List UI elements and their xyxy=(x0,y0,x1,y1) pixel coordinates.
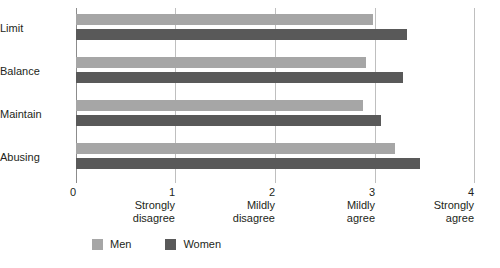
bar-balance-men[interactable] xyxy=(76,57,366,68)
bar-abusing-women[interactable] xyxy=(76,158,420,169)
x-tick-2-caption1: Mildly xyxy=(179,199,275,212)
x-tick-1-value: 1 xyxy=(79,186,175,199)
bar-maintain-women[interactable] xyxy=(76,115,381,126)
bar-limit-men[interactable] xyxy=(76,14,373,25)
category-label-maintain: Maintain xyxy=(0,108,68,120)
legend-swatch-men-icon xyxy=(92,239,103,250)
gridline-4 xyxy=(474,8,475,183)
x-tick-2: 2 Mildly disagree xyxy=(179,186,275,225)
legend-label-women: Women xyxy=(183,238,221,250)
bar-chart: Limit Balance Maintain Abusing xyxy=(0,0,500,268)
x-tick-4-caption1: Strongly xyxy=(378,199,474,212)
x-tick-4-caption2: agree xyxy=(378,212,474,225)
legend-item-men[interactable]: Men xyxy=(92,238,131,250)
x-tick-1-caption1: Strongly xyxy=(79,199,175,212)
bar-maintain-men[interactable] xyxy=(76,100,363,111)
x-tick-3: 3 Mildly agree xyxy=(279,186,375,225)
category-label-balance: Balance xyxy=(0,65,68,77)
bar-balance-women[interactable] xyxy=(76,72,403,83)
category-label-abusing: Abusing xyxy=(0,151,68,163)
x-tick-1: 1 Strongly disagree xyxy=(79,186,175,225)
x-tick-0-value: 0 xyxy=(0,186,76,199)
x-tick-4-value: 4 xyxy=(378,186,474,199)
legend-item-women[interactable]: Women xyxy=(165,238,221,250)
x-tick-2-caption2: disagree xyxy=(179,212,275,225)
legend-swatch-women-icon xyxy=(165,239,176,250)
x-tick-2-value: 2 xyxy=(179,186,275,199)
plot-area xyxy=(76,8,475,183)
x-tick-3-caption2: agree xyxy=(279,212,375,225)
x-tick-4: 4 Strongly agree xyxy=(378,186,474,225)
bar-limit-women[interactable] xyxy=(76,29,407,40)
x-tick-3-value: 3 xyxy=(279,186,375,199)
bar-abusing-men[interactable] xyxy=(76,143,395,154)
x-tick-0: 0 xyxy=(0,186,76,199)
legend-label-men: Men xyxy=(110,238,131,250)
x-tick-3-caption1: Mildly xyxy=(279,199,375,212)
category-label-limit: Limit xyxy=(0,22,68,34)
x-tick-1-caption2: disagree xyxy=(79,212,175,225)
legend: Men Women xyxy=(92,238,221,250)
